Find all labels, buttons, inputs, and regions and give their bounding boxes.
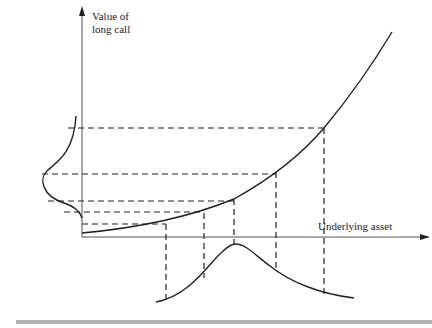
y-axis-label-line2: long call — [92, 23, 130, 36]
y-axis-label: Value of long call — [92, 10, 130, 36]
axes — [82, 12, 422, 237]
footer-divider — [16, 320, 432, 324]
x-axis-label: Underlying asset — [318, 220, 392, 233]
call-value-curve — [82, 32, 392, 233]
horizontal-projections — [42, 128, 324, 224]
option-value-distribution-curve — [43, 116, 82, 218]
y-axis-arrow-icon — [79, 6, 85, 16]
option-value-diagram — [0, 0, 432, 328]
y-axis-label-line1: Value of — [92, 10, 130, 23]
x-axis-arrow-icon — [420, 234, 430, 240]
